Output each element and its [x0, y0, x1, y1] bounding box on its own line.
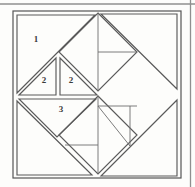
figure-background	[0, 0, 195, 187]
piece-label-3: 3	[59, 104, 64, 114]
piece-label-2a: 2	[42, 75, 47, 85]
piece-label-1: 1	[34, 34, 39, 44]
diagram-canvas: 1 2 2 3	[0, 0, 195, 187]
geometric-dissection-figure: 1 2 2 3	[0, 0, 195, 187]
piece-label-2b: 2	[69, 75, 74, 85]
